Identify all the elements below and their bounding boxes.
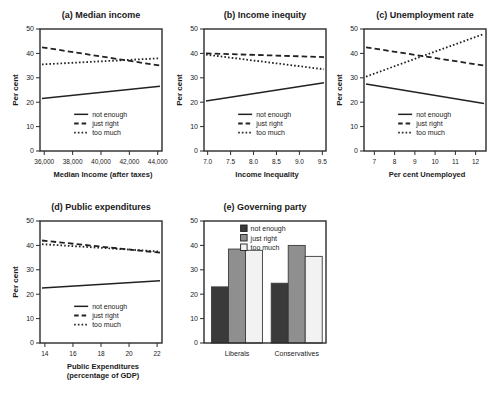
- svg-text:30: 30: [350, 74, 358, 81]
- panel-public-expenditures: (d) Public expenditures Per cent 0102030…: [6, 200, 172, 380]
- svg-text:10: 10: [26, 123, 34, 130]
- svg-text:40: 40: [190, 50, 198, 57]
- svg-text:8.0: 8.0: [249, 158, 258, 165]
- svg-text:50: 50: [350, 25, 358, 32]
- income-inequity-plot: 010203040507.07.58.08.59.09.5not enoughj…: [170, 24, 336, 170]
- svg-text:40: 40: [26, 242, 34, 249]
- svg-text:30: 30: [26, 74, 34, 81]
- y-axis-label: Per cent: [335, 60, 345, 120]
- svg-text:40: 40: [26, 50, 34, 57]
- svg-text:50: 50: [26, 25, 34, 32]
- svg-text:20: 20: [125, 350, 133, 357]
- svg-text:too much: too much: [251, 244, 280, 251]
- svg-text:9.0: 9.0: [295, 158, 304, 165]
- x-axis-label-line2: (percentage of GDP): [6, 371, 172, 380]
- svg-text:30: 30: [26, 266, 34, 273]
- svg-text:0: 0: [30, 339, 34, 346]
- svg-text:just right: just right: [415, 120, 443, 128]
- svg-text:20: 20: [350, 99, 358, 106]
- svg-text:too much: too much: [92, 129, 121, 136]
- svg-text:36,000: 36,000: [34, 158, 54, 165]
- median-income-plot: 0102030405036,00038,00040,00042,00044,00…: [6, 24, 172, 170]
- chart-title: (a) Median income: [6, 8, 172, 24]
- svg-text:10: 10: [432, 158, 440, 165]
- svg-text:0: 0: [194, 339, 198, 346]
- chart-title: (b) Income inequity: [170, 8, 336, 24]
- svg-text:38,000: 38,000: [63, 158, 83, 165]
- panel-governing-party: (e) Governing party 01020304050LiberalsC…: [170, 200, 336, 362]
- panel-median-income: (a) Median income Per cent 0102030405036…: [6, 8, 172, 179]
- svg-text:14: 14: [41, 350, 49, 357]
- chart-title: (e) Governing party: [170, 200, 336, 216]
- svg-text:0: 0: [194, 147, 198, 154]
- svg-text:20: 20: [26, 99, 34, 106]
- svg-text:30: 30: [190, 266, 198, 273]
- x-axis-label: Median Income (after taxes): [6, 170, 172, 179]
- svg-text:not enough: not enough: [92, 303, 127, 311]
- panel-unemployment-rate: (c) Unemployment rate Per cent 010203040…: [330, 8, 496, 179]
- svg-text:50: 50: [190, 217, 198, 224]
- svg-text:too much: too much: [92, 321, 121, 328]
- svg-text:10: 10: [350, 123, 358, 130]
- svg-text:30: 30: [190, 74, 198, 81]
- svg-text:9: 9: [413, 158, 417, 165]
- svg-text:not enough: not enough: [256, 111, 291, 119]
- svg-text:44,000: 44,000: [148, 158, 168, 165]
- svg-text:40: 40: [350, 50, 358, 57]
- svg-text:0: 0: [354, 147, 358, 154]
- x-axis-label: Per cent Unemployed: [330, 170, 496, 179]
- x-axis-label: Public Expenditures: [6, 362, 172, 371]
- svg-text:9.5: 9.5: [318, 158, 327, 165]
- svg-text:11: 11: [452, 158, 459, 165]
- svg-text:not enough: not enough: [416, 111, 451, 119]
- svg-text:not enough: not enough: [251, 225, 286, 233]
- svg-text:40: 40: [190, 242, 198, 249]
- chart-title: (c) Unemployment rate: [330, 8, 496, 24]
- chart-title: (d) Public expenditures: [6, 200, 172, 216]
- svg-text:just right: just right: [91, 120, 119, 128]
- svg-text:50: 50: [26, 217, 34, 224]
- svg-text:7.0: 7.0: [203, 158, 212, 165]
- svg-text:20: 20: [190, 291, 198, 298]
- svg-text:40,000: 40,000: [91, 158, 111, 165]
- svg-text:8: 8: [393, 158, 397, 165]
- svg-text:50: 50: [190, 25, 198, 32]
- svg-text:too much: too much: [416, 129, 445, 136]
- svg-text:7: 7: [373, 158, 377, 165]
- governing-party-plot: 01020304050LiberalsConservativesnot enou…: [170, 216, 336, 362]
- svg-text:0: 0: [30, 147, 34, 154]
- svg-text:just right: just right: [91, 312, 119, 320]
- svg-text:just right: just right: [255, 120, 283, 128]
- svg-text:not enough: not enough: [92, 111, 127, 119]
- svg-text:42,000: 42,000: [119, 158, 139, 165]
- svg-text:20: 20: [190, 99, 198, 106]
- statistical-figure: (a) Median income Per cent 0102030405036…: [0, 0, 496, 394]
- svg-text:12: 12: [472, 158, 480, 165]
- svg-text:10: 10: [26, 315, 34, 322]
- svg-text:8.5: 8.5: [272, 158, 281, 165]
- svg-text:20: 20: [26, 291, 34, 298]
- y-axis-label: Per cent: [11, 252, 21, 312]
- x-axis-label: Income Inequality: [170, 170, 336, 179]
- svg-text:10: 10: [190, 123, 198, 130]
- y-axis-label: Per cent: [11, 60, 21, 120]
- unemployment-rate-plot: 01020304050789101112not enoughjust right…: [330, 24, 496, 170]
- svg-text:Conservatives: Conservatives: [275, 350, 320, 357]
- svg-text:just right: just right: [250, 235, 278, 243]
- svg-text:16: 16: [69, 350, 77, 357]
- public-expenditures-plot: 010203040501416182022not enoughjust righ…: [6, 216, 172, 362]
- svg-text:7.5: 7.5: [226, 158, 235, 165]
- svg-text:18: 18: [97, 350, 105, 357]
- svg-text:22: 22: [154, 350, 162, 357]
- svg-text:Liberals: Liberals: [225, 350, 250, 357]
- panel-income-inequity: (b) Income inequity Per cent 01020304050…: [170, 8, 336, 179]
- svg-text:too much: too much: [256, 129, 285, 136]
- y-axis-label: Per cent: [175, 60, 185, 120]
- svg-text:10: 10: [190, 315, 198, 322]
